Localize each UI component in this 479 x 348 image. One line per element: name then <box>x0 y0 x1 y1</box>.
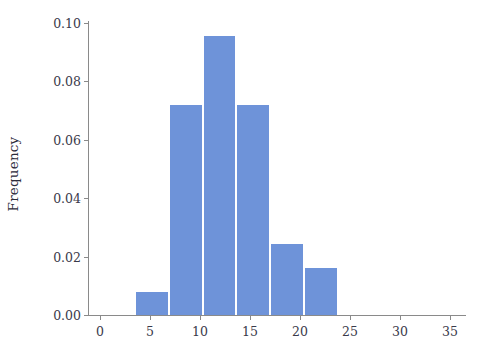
x-axis-tick-mark <box>100 316 101 320</box>
x-axis-tick-mark <box>150 316 151 320</box>
x-axis-tick-mark <box>450 316 451 320</box>
x-axis-ticks: 05101520253035 <box>88 316 466 346</box>
x-axis-tick-label: 10 <box>192 324 208 339</box>
x-axis-tick-mark <box>200 316 201 320</box>
x-axis-tick-label: 5 <box>146 324 154 339</box>
histogram-figure: Frequency 0.000.020.040.060.080.10 05101… <box>0 0 479 348</box>
x-axis-tick-label: 25 <box>342 324 358 339</box>
x-axis-tick-mark <box>350 316 351 320</box>
y-axis-tick-label: 0.06 <box>53 132 81 147</box>
x-axis-tick-mark <box>300 316 301 320</box>
x-axis-tick-label: 30 <box>392 324 408 339</box>
histogram-bar <box>136 292 168 315</box>
plot-area <box>88 23 465 315</box>
y-axis-tick-label: 0.10 <box>53 16 81 31</box>
x-axis-tick-label: 35 <box>442 324 458 339</box>
x-axis-tick-label: 0 <box>96 324 104 339</box>
x-axis-tick-mark <box>400 316 401 320</box>
x-axis-tick-label: 15 <box>242 324 258 339</box>
histogram-bar <box>305 268 337 315</box>
y-axis-tick-label: 0.02 <box>53 249 81 264</box>
x-axis-tick-mark <box>250 316 251 320</box>
histogram-bar <box>170 105 202 315</box>
histogram-bar <box>271 244 303 315</box>
y-axis-tick-label: 0.04 <box>53 191 81 206</box>
x-axis-tick-label: 20 <box>292 324 308 339</box>
y-axis-tick-label: 0.00 <box>53 308 81 323</box>
histogram-bar <box>237 105 269 315</box>
histogram-bar <box>204 36 235 315</box>
y-axis-tick-label: 0.08 <box>53 74 81 89</box>
y-axis-label: Frequency <box>0 0 26 348</box>
